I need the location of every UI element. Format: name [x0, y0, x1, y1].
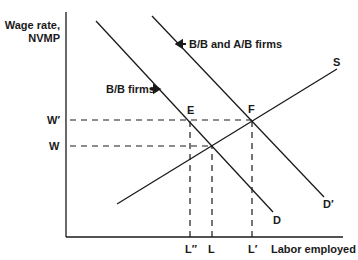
w-label: W	[49, 140, 59, 152]
arrow-left-icon	[177, 41, 187, 48]
y-axis-label-line2: NVMP	[28, 32, 60, 44]
l-double-prime-label: L″	[185, 243, 197, 255]
w-prime-label: W′	[47, 114, 60, 126]
supply-curve-label: S	[333, 56, 340, 68]
l-prime-label: L′	[248, 243, 257, 255]
demand-prime-curve-label: D′	[323, 198, 334, 210]
l-label: L	[208, 243, 215, 255]
point-f-label: F	[248, 103, 255, 115]
x-axis-label: Labor employed	[271, 243, 356, 255]
y-axis-label-line1: Wage rate,	[5, 19, 60, 31]
point-e-label: E	[187, 104, 194, 116]
bb-ab-firms-annotation: B/B and A/B firms	[189, 38, 282, 50]
demand-curve-label: D	[273, 214, 281, 226]
bb-firms-annotation: B/B firms	[106, 83, 155, 95]
